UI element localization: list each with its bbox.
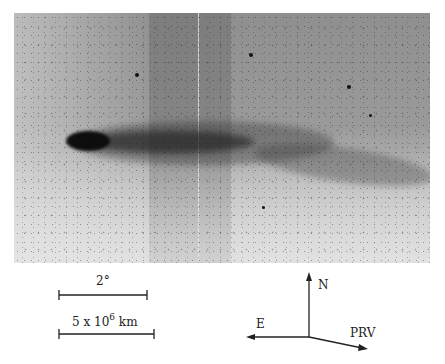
scale-bar-degrees	[59, 290, 147, 300]
compass-prv-label: PRV	[350, 327, 375, 339]
scale-label-degrees: 2°	[96, 275, 110, 287]
scale-label-km-prefix: 5 x 10	[72, 315, 109, 329]
scale-label-km: 5 x 106 km	[72, 313, 138, 328]
scale-label-km-suffix: km	[115, 315, 137, 329]
annotations	[0, 0, 445, 364]
scale-bar-km	[59, 329, 154, 339]
compass-east-label: E	[256, 318, 265, 330]
compass-north-label: N	[318, 279, 329, 291]
